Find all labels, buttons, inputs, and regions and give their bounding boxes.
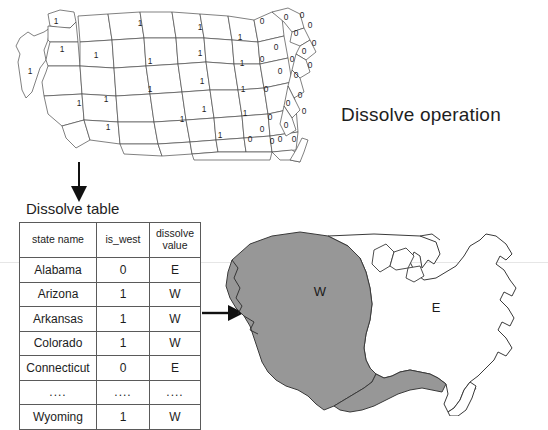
state-value-east: 0 [260, 54, 265, 64]
table-row: Wyoming1W [20, 405, 201, 430]
table-row: Alabama0E [20, 258, 201, 283]
table-row: Connecticut0E [20, 356, 201, 381]
cell-dissolve-value: W [150, 282, 201, 307]
state-value-west: 1 [238, 32, 243, 42]
state-value-east: 0 [270, 136, 275, 146]
state-value-west: 1 [198, 22, 203, 32]
cell-is-west: 1 [97, 282, 150, 307]
cell-state-name: Wyoming [20, 405, 97, 430]
state-value-east: 0 [300, 10, 305, 20]
table-body: Alabama0EArizona1WArkansas1WColorado1WCo… [20, 258, 201, 430]
state-value-east: 0 [268, 112, 273, 122]
state-value-east: 0 [264, 84, 269, 94]
state-value-east: 0 [260, 124, 265, 134]
state-value-east: 0 [278, 134, 283, 144]
state-value-east: 0 [302, 46, 307, 56]
column-header-dissolve-value: dissolve value [150, 223, 201, 258]
state-value-east: 0 [312, 38, 317, 48]
table-row: ............ [20, 380, 201, 405]
state-value-west: 1 [218, 130, 223, 140]
state-value-west: 1 [60, 44, 65, 54]
west-region [226, 232, 376, 410]
state-value-east: 0 [292, 134, 297, 144]
column-header-dissolve-value-line2: value [162, 239, 187, 251]
column-header-state-name-label: state name [32, 233, 84, 245]
state-value-east: 0 [302, 106, 307, 116]
cell-dissolve-value: W [150, 331, 201, 356]
west-region-label: W [314, 284, 327, 299]
state-value-east: 0 [290, 54, 295, 64]
cell-dissolve-value: E [150, 258, 201, 283]
source-map: 11111111111111111111 0000000000000000000… [4, 2, 326, 164]
state-value-west: 1 [180, 114, 185, 124]
state-value-west: 1 [241, 84, 246, 94]
east-region-label: E [432, 300, 441, 315]
table-caption: Dissolve table [26, 200, 119, 217]
cell-state-name: Alabama [20, 258, 97, 283]
cell-dissolve-value: E [150, 356, 201, 381]
cell-state-name: Arizona [20, 282, 97, 307]
state-value-west: 1 [200, 76, 205, 86]
state-value-west: 1 [77, 98, 82, 108]
state-value-east: 0 [284, 120, 289, 130]
state-value-east: 0 [298, 90, 303, 100]
state-value-east: 0 [294, 70, 299, 80]
state-value-west: 1 [240, 58, 245, 68]
state-value-east: 0 [248, 134, 253, 144]
arrow-down-icon [62, 160, 96, 204]
cell-is-west: 1 [97, 405, 150, 430]
cell-is-west: 1 [97, 331, 150, 356]
column-header-is-west-label: is_west [105, 233, 140, 245]
state-value-west: 1 [106, 122, 111, 132]
table-row: Colorado1W [20, 331, 201, 356]
column-header-is-west: is_west [97, 223, 150, 258]
state-value-west: 1 [148, 84, 153, 94]
cell-is-west: 0 [97, 356, 150, 381]
column-header-dissolve-value-line1: dissolve [156, 227, 194, 239]
cell-state-name: Colorado [20, 331, 97, 356]
state-value-west: 1 [94, 50, 99, 60]
table-row: Arizona1W [20, 282, 201, 307]
dissolved-map: W E [224, 230, 548, 416]
dissolve-table: state name is_west dissolve value Alabam… [19, 222, 201, 430]
state-value-west: 1 [54, 16, 59, 26]
cell-state-name: .... [20, 380, 97, 405]
state-value-east: 0 [308, 20, 313, 30]
table-header-row: state name is_west dissolve value [20, 223, 201, 258]
cell-is-west: 1 [97, 307, 150, 332]
state-value-east: 0 [286, 98, 291, 108]
page-title: Dissolve operation [341, 104, 501, 126]
state-value-east: 0 [294, 28, 299, 38]
state-value-east: 0 [260, 16, 265, 26]
column-header-state-name: state name [20, 223, 97, 258]
cell-dissolve-value: .... [150, 380, 201, 405]
cell-is-west: .... [97, 380, 150, 405]
cell-state-name: Connecticut [20, 356, 97, 381]
table-row: Arkansas1W [20, 307, 201, 332]
state-value-west: 1 [202, 104, 207, 114]
cell-is-west: 0 [97, 258, 150, 283]
state-value-west: 1 [104, 94, 109, 104]
state-value-east: 0 [284, 12, 289, 22]
state-value-east: 0 [308, 60, 313, 70]
state-value-west: 1 [198, 48, 203, 58]
state-value-west: 1 [148, 56, 153, 66]
cell-state-name: Arkansas [20, 307, 97, 332]
state-value-east: 0 [278, 66, 283, 76]
state-value-west: 1 [138, 18, 143, 28]
state-value-west: 1 [28, 66, 33, 76]
state-value-west: 1 [243, 108, 248, 118]
cell-dissolve-value: W [150, 307, 201, 332]
cell-dissolve-value: W [150, 405, 201, 430]
state-value-east: 0 [274, 42, 279, 52]
